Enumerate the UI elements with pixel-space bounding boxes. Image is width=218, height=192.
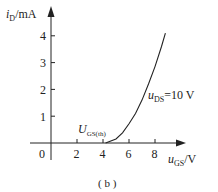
x-axis-label: uGS/V bbox=[168, 152, 197, 168]
x-tick-label: 8 bbox=[152, 147, 158, 161]
y-tick-label: 2 bbox=[40, 83, 46, 97]
y-tick-label: 1 bbox=[40, 110, 46, 124]
threshold-label: UGS(th) bbox=[78, 122, 106, 138]
threshold-label-sub: GS(th) bbox=[87, 130, 107, 138]
x-tick-label: 4 bbox=[100, 147, 106, 161]
y-axis-arrow-icon bbox=[48, 6, 55, 17]
curve-label: uDS=10 V bbox=[148, 88, 195, 104]
curve-uds-10v bbox=[106, 33, 166, 143]
x-axis-arrow-icon bbox=[176, 140, 186, 147]
x-tick-label: 2 bbox=[74, 147, 80, 161]
x-ticks: 02468 bbox=[39, 139, 158, 161]
y-tick-label: 3 bbox=[40, 56, 46, 70]
curve-label-value: =10 V bbox=[164, 88, 195, 102]
figure-caption: ( b ) bbox=[98, 177, 117, 190]
y-tick-label: 4 bbox=[40, 29, 46, 43]
y-axis-label: iD/mA bbox=[6, 7, 37, 23]
transfer-characteristic-chart: 02468 1234 iD/mA uGS/V UGS(th) uDS=10 V … bbox=[0, 0, 218, 192]
x-tick-label: 0 bbox=[39, 147, 45, 161]
x-axis-label-unit: /V bbox=[184, 152, 196, 166]
y-axis-label-unit: /mA bbox=[15, 7, 37, 21]
y-ticks: 1234 bbox=[40, 29, 55, 123]
x-axis-label-sub: GS bbox=[174, 159, 184, 168]
x-tick-label: 6 bbox=[126, 147, 132, 161]
curve-label-sub: DS bbox=[154, 95, 164, 104]
